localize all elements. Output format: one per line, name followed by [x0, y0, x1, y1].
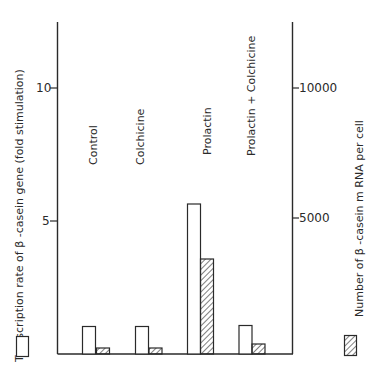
legend-hatched-box-icon	[345, 336, 357, 356]
bar-transcription-control	[83, 327, 96, 355]
bar-transcription-prolactin	[188, 204, 201, 354]
right-axis-label: Number of β -casein m RNA per cell	[353, 120, 366, 317]
bar-group-prolactin-colchicine	[239, 326, 265, 355]
legend-open-box-icon	[17, 337, 29, 357]
bar-transcription-prolactin-colchicine	[239, 326, 252, 355]
right-tick-10000: 10000	[299, 81, 337, 95]
bar-mrna-colchicine	[149, 348, 162, 354]
left-tick-5: 5	[42, 214, 50, 228]
bar-group-control	[83, 327, 110, 355]
category-label-prolactin: Prolactin	[201, 107, 214, 155]
bar-mrna-prolactin	[201, 259, 214, 354]
bar-mrna-prolactin-colchicine	[252, 344, 265, 354]
category-label-control: Control	[87, 125, 100, 165]
right-axis: 10000 5000	[293, 22, 338, 354]
bar-group-colchicine	[136, 327, 163, 355]
category-label-colchicine: Colchicine	[134, 108, 147, 165]
left-tick-10: 10	[36, 81, 51, 95]
bar-transcription-colchicine	[136, 327, 149, 355]
category-label-prolactin-colchicine: Prolactin + Colchicine	[245, 36, 258, 156]
left-axis-label: Transcription rate of β -casein gene (fo…	[13, 69, 26, 363]
chart-canvas: 10 5 10000 5000 Transcription rate of β …	[0, 0, 372, 380]
bar-mrna-control	[97, 348, 110, 354]
right-tick-5000: 5000	[299, 211, 330, 225]
left-axis: 10 5	[36, 22, 58, 354]
bar-group-prolactin	[188, 204, 214, 354]
